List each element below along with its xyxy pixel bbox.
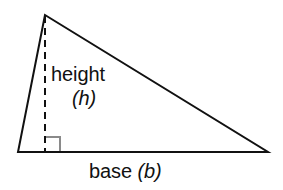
triangle-diagram: height (h) base (b) [0, 0, 283, 190]
base-label-word: base [89, 160, 132, 182]
height-label: height [51, 64, 105, 84]
base-symbol-label: (b) [137, 160, 161, 182]
right-angle-marker-icon [46, 137, 60, 152]
base-label: base (b) [89, 161, 162, 181]
height-symbol-label: (h) [72, 88, 96, 108]
